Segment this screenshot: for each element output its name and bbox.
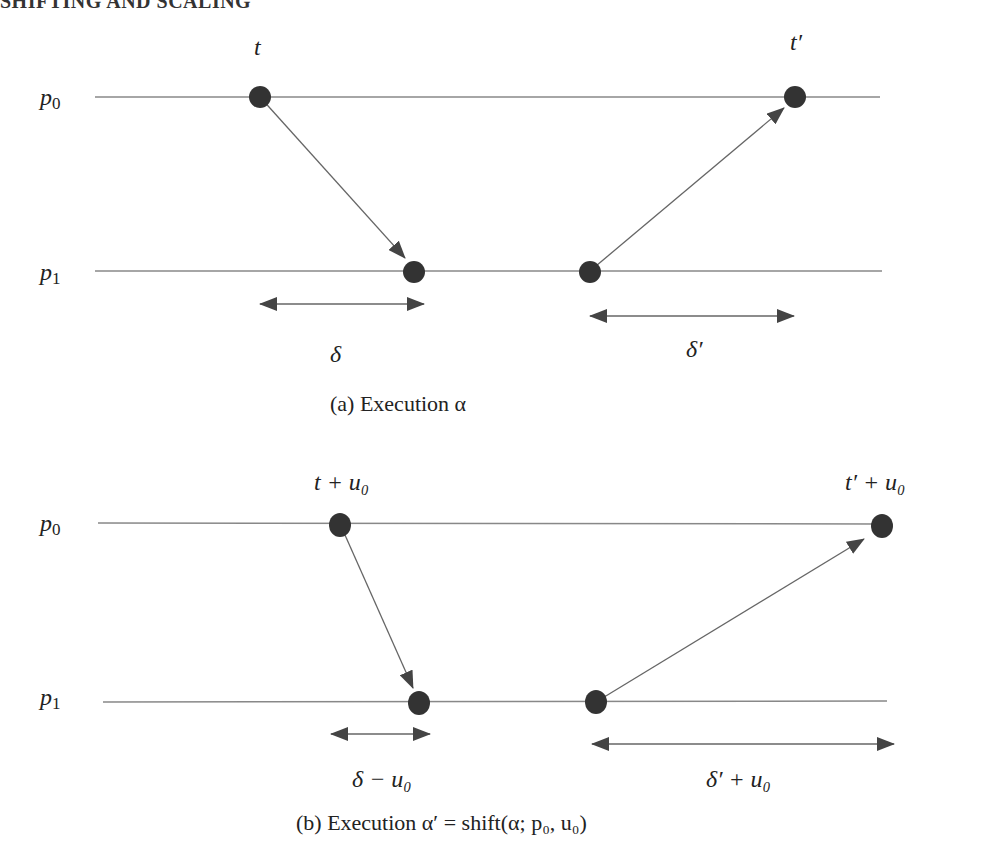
event-dot-send-2 [579, 261, 601, 283]
delay-label-delta-prime-plus-u0: δ′ + u₀ [706, 766, 771, 792]
event-label-t-plus-u0: t + u₀ [314, 469, 369, 495]
timeline-p0-b [98, 523, 880, 524]
message-arrow-1-b [341, 526, 413, 688]
event-dot-recv-2-b [871, 514, 893, 538]
process-label-p0: p0 [38, 84, 61, 113]
event-label-t: t [254, 34, 262, 60]
caption-b: (b) Execution α′ = shift(α; p₀, u₀) [296, 810, 587, 835]
message-arrow-1 [260, 97, 405, 258]
event-dot-send-2-b [585, 690, 607, 714]
event-label-t-prime: t′ [790, 29, 803, 55]
event-label-t-prime-plus-u0: t′ + u₀ [845, 469, 905, 495]
process-label-p1-b: p1 [38, 684, 61, 713]
figure-a: p0 p1 t t′ δ δ′ (a) Execution α [38, 29, 882, 416]
process-label-p1: p1 [38, 259, 61, 288]
event-dot-recv-1-b [408, 691, 430, 715]
event-dot-send-1-b [329, 513, 351, 537]
caption-a: (a) Execution α [330, 391, 467, 416]
message-arrow-2-b [596, 539, 864, 702]
process-label-p0-b: p0 [38, 510, 61, 539]
event-dot-recv-2 [784, 86, 806, 108]
event-dot-recv-1 [403, 261, 425, 283]
execution-diagrams: p0 p1 t t′ δ δ′ (a) Execution α p0 p1 t … [0, 0, 981, 865]
message-arrow-2 [590, 108, 784, 271]
delay-label-delta: δ [330, 341, 342, 367]
timeline-p1-b [103, 701, 887, 702]
delay-label-delta-minus-u0: δ − u₀ [352, 766, 412, 792]
event-dot-send-1 [249, 86, 271, 108]
delay-label-delta-prime: δ′ [686, 336, 703, 362]
figure-b: p0 p1 t + u₀ t′ + u₀ δ − u₀ δ′ + u₀ (b) … [38, 469, 905, 835]
